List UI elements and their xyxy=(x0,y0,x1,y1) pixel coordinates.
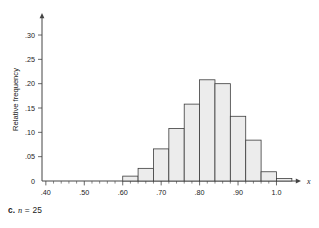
x-tick-label: .80 xyxy=(195,188,205,197)
caption-value: 25 xyxy=(32,205,42,215)
histogram-plot: 0.05.10.15.20.25.30.40.50.60.70.80.901.0… xyxy=(0,0,319,228)
histogram-bar xyxy=(153,149,168,181)
x-axis-arrow xyxy=(296,179,301,184)
caption-variable: n xyxy=(18,206,22,215)
histogram-bar xyxy=(230,116,245,181)
histogram-bar xyxy=(215,84,230,181)
y-axis-arrow xyxy=(40,13,45,18)
y-tick-label: .30 xyxy=(25,31,35,40)
histogram-bar xyxy=(169,128,184,181)
caption-equals: = xyxy=(25,205,30,215)
figure-caption: c. n = 25 xyxy=(8,205,42,215)
x-tick-label: .90 xyxy=(233,188,243,197)
y-tick-label: .15 xyxy=(25,104,35,113)
y-tick-label: .10 xyxy=(25,128,35,137)
x-tick-label: .60 xyxy=(118,188,128,197)
x-tick-label: .50 xyxy=(79,188,89,197)
histogram-bar xyxy=(200,80,215,181)
x-tick-label: .70 xyxy=(156,188,166,197)
histogram-bar xyxy=(246,140,261,181)
y-tick-label: .25 xyxy=(25,55,35,64)
caption-letter: c. xyxy=(8,205,15,215)
x-tick-label: 1.0 xyxy=(271,188,281,197)
x-axis-title: x xyxy=(306,177,311,186)
histogram-bar xyxy=(138,168,153,181)
histogram-bar xyxy=(261,172,276,181)
y-tick-label: 0 xyxy=(31,177,35,186)
histogram-figure: 0.05.10.15.20.25.30.40.50.60.70.80.901.0… xyxy=(0,0,319,228)
y-axis-title: Relative frequency xyxy=(11,68,20,131)
histogram-bar xyxy=(184,104,199,181)
y-tick-label: .05 xyxy=(25,152,35,161)
y-tick-label: .20 xyxy=(25,79,35,88)
histogram-bar xyxy=(123,176,138,181)
histogram-bar xyxy=(276,179,291,181)
x-tick-label: .40 xyxy=(41,188,51,197)
